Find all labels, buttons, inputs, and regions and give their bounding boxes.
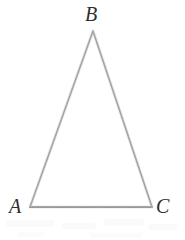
vertex-label-b: B bbox=[85, 4, 97, 24]
triangle-figure: A B C bbox=[0, 0, 185, 240]
vertex-label-c: C bbox=[156, 196, 169, 216]
vertex-label-a: A bbox=[9, 196, 21, 216]
triangle-edge-base bbox=[30, 207, 152, 208]
